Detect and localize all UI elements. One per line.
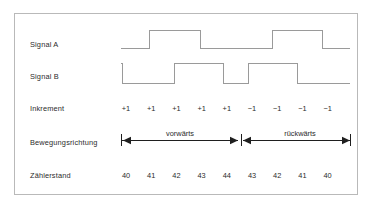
signal-b-waveform xyxy=(121,64,350,84)
backward-arrow-head-right xyxy=(342,137,350,144)
counter-value: 44 xyxy=(215,172,239,179)
increment-value: −1 xyxy=(316,105,340,112)
direction-label-forward: vorwärts xyxy=(150,130,210,137)
counter-value: 42 xyxy=(265,172,289,179)
increment-value: +1 xyxy=(164,105,188,112)
forward-arrow-head-right xyxy=(230,137,238,144)
direction-label-backward: rückwärts xyxy=(270,130,330,137)
signal-a-waveform xyxy=(121,31,350,49)
backward-arrow-head-left xyxy=(243,137,251,144)
counter-value: 40 xyxy=(316,172,340,179)
counter-value: 42 xyxy=(164,172,188,179)
increment-value: +1 xyxy=(215,105,239,112)
counter-value: 41 xyxy=(290,172,314,179)
increment-value: +1 xyxy=(114,105,138,112)
forward-arrow-head-left xyxy=(123,137,131,144)
increment-value: −1 xyxy=(290,105,314,112)
increment-value: −1 xyxy=(265,105,289,112)
counter-value: 41 xyxy=(139,172,163,179)
increment-value: −1 xyxy=(240,105,264,112)
increment-value: +1 xyxy=(139,105,163,112)
counter-value: 43 xyxy=(240,172,264,179)
counter-value: 40 xyxy=(114,172,138,179)
counter-value: 43 xyxy=(190,172,214,179)
increment-value: +1 xyxy=(190,105,214,112)
